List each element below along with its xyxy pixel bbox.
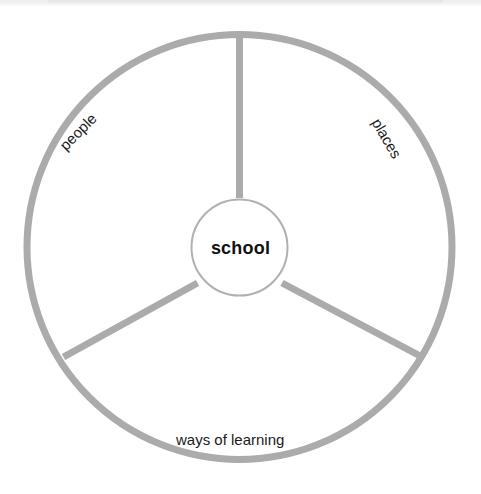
segment-label-ways-of-learning: ways of learning bbox=[176, 432, 284, 447]
spoke-lower-left bbox=[64, 283, 198, 357]
center-label-school: school bbox=[0, 238, 481, 259]
wheel-diagram: people places ways of learning school bbox=[0, 0, 481, 494]
spoke-lower-right bbox=[282, 283, 424, 358]
